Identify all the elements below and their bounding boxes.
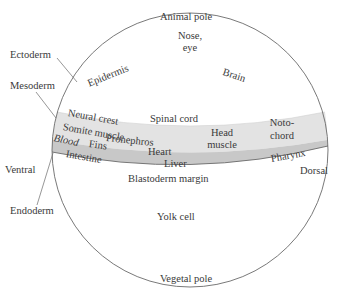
animal-pole-label: Animal pole <box>146 11 226 23</box>
heart-label: Heart <box>148 146 171 158</box>
dorsal-label: Dorsal <box>300 165 328 177</box>
notochord-label-2: chord <box>262 130 302 142</box>
endoderm-leader <box>37 153 53 205</box>
ectoderm-label: Ectoderm <box>10 49 51 61</box>
ectoderm-leader <box>57 58 77 82</box>
head-muscle-label-1: Head <box>200 127 244 139</box>
yolk-cell-label: Yolk cell <box>157 211 195 223</box>
mesoderm-leader <box>36 92 56 118</box>
blastoderm-margin-label: Blastoderm margin <box>128 173 209 185</box>
nose-eye-label-2: eye <box>170 42 210 54</box>
liver-label: Liver <box>164 158 187 170</box>
spinal-cord-label: Spinal cord <box>150 113 198 125</box>
nose-eye-label-1: Nose, <box>170 30 210 42</box>
mesoderm-label: Mesoderm <box>10 80 55 92</box>
endoderm-label: Endoderm <box>10 205 54 217</box>
vegetal-pole-label: Vegetal pole <box>146 273 226 285</box>
notochord-label-1: Noto- <box>262 117 302 129</box>
head-muscle-label-2: muscle <box>200 139 244 151</box>
ventral-label: Ventral <box>5 164 35 176</box>
